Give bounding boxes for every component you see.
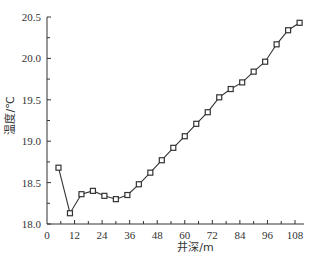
data-point [159, 158, 164, 163]
data-point [274, 42, 279, 47]
x-tick-label: 60 [179, 229, 191, 241]
x-ticks: 01224364860728496108 [44, 220, 304, 241]
data-point [90, 188, 95, 193]
data-point [182, 134, 187, 139]
y-tick-label: 18.5 [22, 177, 42, 189]
x-tick-label: 108 [287, 229, 304, 241]
x-tick-label: 12 [69, 229, 80, 241]
x-tick-label: 0 [44, 229, 50, 241]
x-tick-label: 96 [262, 229, 274, 241]
data-point [194, 121, 199, 126]
x-tick-label: 84 [234, 229, 246, 241]
data-point [286, 28, 291, 33]
data-point [240, 80, 245, 85]
data-point [67, 211, 72, 216]
y-tick-label: 18.0 [22, 218, 42, 230]
data-point [228, 87, 233, 92]
data-point [251, 69, 256, 74]
x-axis-title: 井深/m [177, 240, 213, 254]
data-point [136, 182, 141, 187]
y-tick-label: 20.0 [22, 52, 42, 64]
x-tick-label: 72 [207, 229, 218, 241]
data-point [148, 170, 153, 175]
x-tick-label: 24 [97, 229, 109, 241]
data-point [102, 193, 107, 198]
data-point [56, 165, 61, 170]
series-line [59, 23, 300, 213]
data-point [263, 59, 268, 64]
data-point [205, 110, 210, 115]
y-tick-label: 19.5 [22, 94, 42, 106]
series-group [56, 20, 302, 215]
chart: 01224364860728496108 18.018.519.019.520.… [0, 0, 313, 264]
data-point [171, 145, 176, 150]
x-tick-label: 36 [124, 229, 136, 241]
data-point [297, 20, 302, 25]
x-tick-label: 48 [152, 229, 164, 241]
y-tick-label: 20.5 [22, 11, 42, 23]
data-point [217, 95, 222, 100]
data-point [113, 197, 118, 202]
data-point [125, 193, 130, 198]
data-point [79, 192, 84, 197]
y-axis-title: 温度/℃ [3, 96, 17, 134]
y-tick-label: 19.0 [22, 135, 42, 147]
